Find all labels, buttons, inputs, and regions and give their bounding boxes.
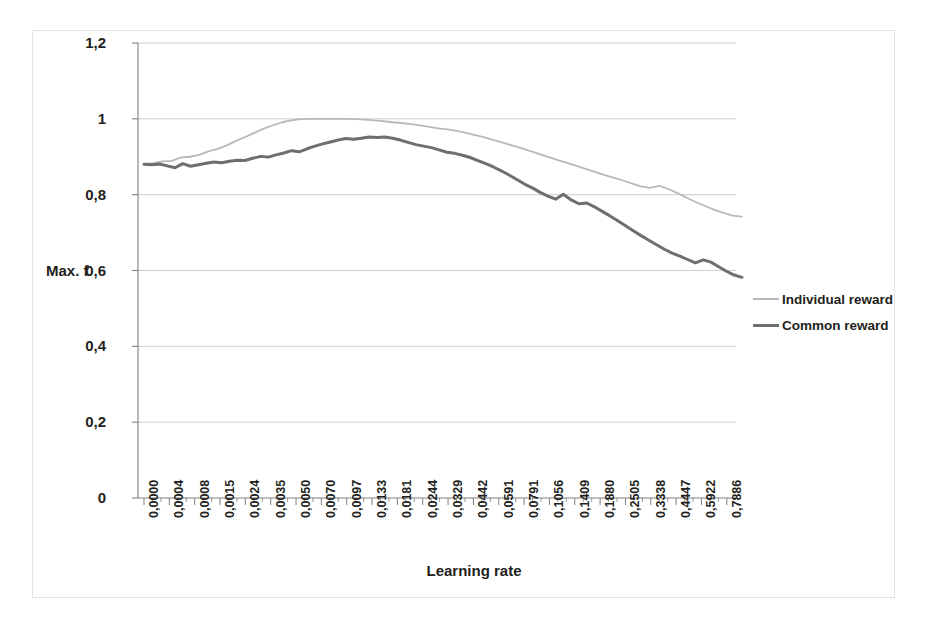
- x-axis-tick-label: 0,0591: [504, 508, 514, 518]
- legend-item-label: Individual reward: [782, 292, 893, 307]
- legend-item-label: Common reward: [782, 318, 889, 333]
- y-axis-tick-label: 0: [20, 490, 106, 505]
- x-axis-tick-label: 0,0015: [225, 508, 235, 518]
- gridlines: [138, 43, 736, 498]
- x-axis-tick-label: 0,3338: [656, 508, 666, 518]
- x-axis-tick-label: 0,0070: [326, 508, 336, 518]
- y-axis-tick-label: 0,2: [20, 414, 106, 429]
- legend-item[interactable]: Individual reward: [753, 286, 903, 312]
- data-series: [144, 119, 742, 277]
- x-axis-tick-label: 0,0329: [453, 508, 463, 518]
- axis-ticks: [132, 43, 727, 505]
- y-axis-tick-label: 0,4: [20, 338, 106, 353]
- y-axis-tick-label: 1: [20, 111, 106, 126]
- x-axis-tick-label: 0,0008: [200, 508, 210, 518]
- y-axis-title: Max. f: [46, 263, 89, 278]
- x-axis-tick-label: 0,4447: [681, 508, 691, 518]
- x-axis-tick-label: 0,2505: [630, 508, 640, 518]
- x-axis-title: Learning rate: [0, 562, 932, 579]
- x-axis-tick-label: 0,1880: [605, 508, 615, 518]
- x-axis-tick-label: 0,0024: [250, 508, 260, 518]
- chart-figure: 00,20,40,60,811,2 Max. f 0,00000,00040,0…: [0, 0, 932, 636]
- x-axis-tick-label: 0,0004: [174, 508, 184, 518]
- x-axis-tick-label: 0,0244: [428, 508, 438, 518]
- x-axis-tick-label: 0,0791: [529, 508, 539, 518]
- x-axis-tick-label: 0,0133: [377, 508, 387, 518]
- y-axis-tick-label: 1,2: [20, 35, 106, 50]
- x-axis-tick-label: 0,5922: [706, 508, 716, 518]
- legend-line-swatch: [753, 298, 779, 300]
- x-axis-tick-label: 0,0050: [301, 508, 311, 518]
- x-axis-tick-label: 0,0000: [149, 508, 159, 518]
- legend-item[interactable]: Common reward: [753, 312, 903, 338]
- x-axis-tick-label: 0,7886: [732, 508, 742, 518]
- x-axis-tick-label: 0,0035: [276, 508, 286, 518]
- chart-legend: Individual rewardCommon reward: [753, 286, 903, 338]
- x-axis-tick-label: 0,1056: [554, 508, 564, 518]
- x-axis-tick-label: 0,0181: [402, 508, 412, 518]
- x-axis-tick-label: 0,1409: [580, 508, 590, 518]
- legend-line-swatch: [753, 324, 779, 327]
- y-axis-tick-label: 0,8: [20, 187, 106, 202]
- x-axis-tick-label: 0,0097: [352, 508, 362, 518]
- x-axis-tick-label: 0,0442: [478, 508, 488, 518]
